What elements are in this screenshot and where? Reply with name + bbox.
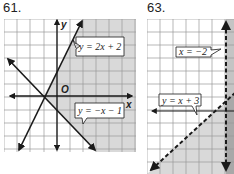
label-callout-y-x-plus-3: y = x + 3 [159,94,201,115]
label-callout-x-neg-2: x = −2 [176,46,221,57]
equation-label-y-x-plus-3: y = x + 3 [161,95,199,106]
graph-63: x = −2 y = x + 3 [0,0,234,174]
equation-label-x-neg-2: x = −2 [178,46,207,57]
